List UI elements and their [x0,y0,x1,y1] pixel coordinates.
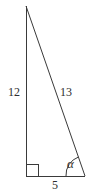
angle-label-alpha: α [67,157,74,170]
side-hypotenuse [26,6,85,176]
geometry-figure: 12 13 5 α [0,0,97,193]
side-label-hypotenuse: 13 [60,86,72,98]
side-label-vertical-leg: 12 [8,86,20,98]
right-angle-square-icon [26,164,38,176]
side-label-base: 5 [52,179,58,191]
